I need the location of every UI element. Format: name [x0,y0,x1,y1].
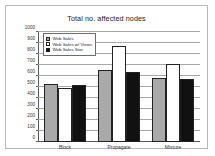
black-swatch-icon [46,48,50,52]
gray-swatch-icon [46,37,50,41]
y-axis-tick-label: 1000 [25,25,35,30]
y-axis-tick-label: 700 [27,58,35,63]
bar[interactable] [112,46,126,142]
chart-title: Total no. affected nodes [6,14,207,23]
y-axis-tick-label: 500 [27,80,35,85]
y-axis-tick-label: 0 [32,135,35,140]
bar-group [92,32,146,142]
chart-frame: Total no. affected nodes 010020030040050… [5,5,208,149]
y-axis-tick-label: 300 [27,102,35,107]
x-axis-label: Propagate [92,144,146,150]
legend-item-label: Web Sales [53,36,74,41]
legend-item-label: Web Sales Star [53,47,83,52]
bar-group [146,32,200,142]
x-axis-label: Block [38,144,92,150]
legend-item-label: Web Sales w/ Views [53,42,93,47]
y-axis-tick-label: 200 [27,113,35,118]
bar[interactable] [44,84,58,142]
bar[interactable] [152,78,166,142]
bar[interactable] [180,79,194,142]
y-axis-tick-label: 100 [27,124,35,129]
bar[interactable] [72,85,86,142]
x-axis-label: Mixture [146,144,200,150]
y-axis-tick-label: 400 [27,91,35,96]
white-swatch-icon [46,42,50,46]
y-axis-tick-label: 800 [27,47,35,52]
y-axis-tick-label: 900 [27,36,35,41]
bar[interactable] [58,88,72,142]
chart-legend: Web SalesWeb Sales w/ ViewsWeb Sales Sta… [43,33,96,56]
legend-item[interactable]: Web Sales w/ Views [46,42,92,48]
y-axis-tick-label: 600 [27,69,35,74]
bar[interactable] [98,70,112,142]
x-axis-labels: BlockPropagateMixture [38,144,200,150]
legend-item[interactable]: Web Sales Star [46,47,92,53]
bar[interactable] [166,64,180,142]
bar[interactable] [126,72,140,142]
